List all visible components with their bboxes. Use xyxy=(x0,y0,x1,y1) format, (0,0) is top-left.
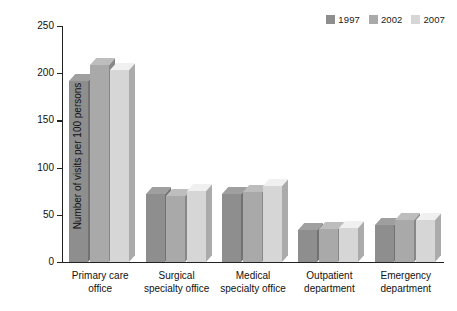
bar-side-face xyxy=(358,221,364,262)
y-axis-line xyxy=(62,26,63,262)
y-tick-label: 50 xyxy=(43,210,54,220)
legend-item-2002: 2002 xyxy=(369,15,403,25)
bar-2007 xyxy=(339,228,358,262)
bar-group xyxy=(375,26,437,262)
bar-front-face xyxy=(298,230,317,262)
bar-2002 xyxy=(319,229,338,262)
legend-item-1997: 1997 xyxy=(326,15,360,25)
y-axis-title: Number of visits per 100 persons xyxy=(73,82,83,229)
y-tick-mark xyxy=(57,262,62,263)
bar-1997 xyxy=(298,230,317,262)
bar-1997 xyxy=(146,194,165,262)
bar-front-face xyxy=(222,194,241,262)
bar-side-face xyxy=(282,179,288,262)
legend-swatch-icon xyxy=(326,15,335,24)
bar-front-face xyxy=(187,191,206,262)
bar-side-face xyxy=(129,63,135,262)
bar-2002 xyxy=(395,220,414,262)
bar-2007 xyxy=(263,186,282,262)
y-tick-mark xyxy=(57,120,62,121)
legend-label: 2007 xyxy=(423,15,445,25)
bar-2007 xyxy=(187,191,206,262)
y-tick-label: 200 xyxy=(37,68,54,78)
plot-area: 050100150200250 xyxy=(62,26,444,262)
legend-label: 2002 xyxy=(381,15,403,25)
bar-front-face xyxy=(339,228,358,262)
y-tick-label: 0 xyxy=(48,257,54,267)
bar-front-face xyxy=(166,196,185,262)
bar-group xyxy=(298,26,360,262)
bar-front-face xyxy=(146,194,165,262)
legend-swatch-icon xyxy=(369,15,378,24)
bar-chart: 199720022007 050100150200250 Number of v… xyxy=(0,0,457,311)
y-tick-label: 250 xyxy=(37,21,54,31)
y-tick-mark xyxy=(57,168,62,169)
bar-front-face xyxy=(395,220,414,262)
bar-front-face xyxy=(90,65,109,262)
bar-group xyxy=(146,26,208,262)
legend-label: 1997 xyxy=(338,15,360,25)
y-tick-label: 150 xyxy=(37,115,54,125)
bar-side-face xyxy=(435,213,441,262)
bar-side-face xyxy=(206,184,212,262)
y-tick-mark xyxy=(57,73,62,74)
legend-item-2007: 2007 xyxy=(411,15,445,25)
bar-front-face xyxy=(110,70,129,262)
category-label: Emergency department xyxy=(361,270,451,295)
bar-front-face xyxy=(243,192,262,262)
y-tick-mark xyxy=(57,215,62,216)
bar-front-face xyxy=(375,225,394,262)
legend-swatch-icon xyxy=(411,15,420,24)
y-tick-label: 100 xyxy=(37,163,54,173)
bar-2002 xyxy=(90,65,109,262)
bar-2002 xyxy=(166,196,185,262)
bar-2007 xyxy=(110,70,129,262)
bar-group xyxy=(222,26,284,262)
bar-2007 xyxy=(416,220,435,262)
bar-front-face xyxy=(416,220,435,262)
bar-1997 xyxy=(375,225,394,262)
bar-1997 xyxy=(222,194,241,262)
bar-front-face xyxy=(319,229,338,262)
y-tick-mark xyxy=(57,26,62,27)
bar-front-face xyxy=(263,186,282,262)
chart-legend: 199720022007 xyxy=(326,15,445,25)
bar-2002 xyxy=(243,192,262,262)
